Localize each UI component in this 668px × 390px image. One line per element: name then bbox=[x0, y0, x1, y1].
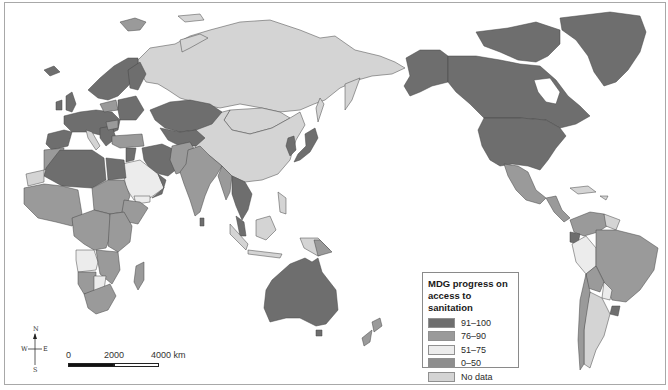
scale-label-4000: 4000 km bbox=[151, 350, 186, 360]
region-usa bbox=[478, 118, 566, 170]
legend-item-76-90: 76–90 bbox=[428, 330, 513, 344]
legend-swatch bbox=[428, 358, 455, 368]
region-uruguay bbox=[610, 306, 620, 316]
legend-item-0-50: 0–50 bbox=[428, 357, 513, 371]
region-central-africa bbox=[72, 210, 112, 250]
region-franz-josef bbox=[178, 14, 204, 22]
region-poland bbox=[100, 100, 118, 112]
region-canada bbox=[448, 56, 590, 128]
region-angola bbox=[76, 250, 98, 272]
compass-west: W bbox=[21, 345, 28, 353]
region-svalbard bbox=[120, 18, 146, 31]
compass-south: S bbox=[33, 366, 37, 374]
compass-rose: N W E S bbox=[20, 325, 50, 375]
region-romania bbox=[106, 120, 118, 130]
legend-item-91-100: 91–100 bbox=[428, 316, 513, 330]
legend-title: MDG progress on access to sanitation bbox=[428, 278, 513, 314]
region-uk bbox=[66, 92, 76, 112]
region-australia bbox=[264, 258, 338, 326]
region-philippines bbox=[278, 192, 286, 214]
region-ireland bbox=[56, 100, 62, 110]
legend-swatch bbox=[428, 345, 455, 355]
region-thailand-indochina bbox=[232, 176, 252, 220]
region-central-america bbox=[546, 196, 570, 222]
legend-swatch bbox=[428, 372, 455, 382]
compass-east: E bbox=[43, 345, 48, 353]
region-levant bbox=[126, 148, 136, 162]
region-caribbean bbox=[570, 186, 608, 200]
region-alaska bbox=[404, 50, 448, 96]
region-borneo bbox=[256, 216, 276, 240]
region-turkey bbox=[112, 134, 144, 148]
region-russia bbox=[138, 20, 405, 112]
scale-label-0: 0 bbox=[66, 350, 71, 360]
region-madagascar bbox=[134, 262, 144, 290]
region-sri-lanka bbox=[200, 218, 204, 226]
scale-label-2000: 2000 bbox=[104, 350, 124, 360]
legend-swatch bbox=[428, 318, 455, 328]
scale-bar: 0 2000 4000 km bbox=[66, 350, 266, 380]
compass-north: N bbox=[33, 325, 39, 333]
region-new-zealand bbox=[362, 318, 382, 346]
legend-item-51-75: 51–75 bbox=[428, 343, 513, 357]
legend-item-no-data: No data bbox=[428, 370, 513, 384]
region-java bbox=[248, 250, 282, 258]
region-iceland bbox=[44, 66, 60, 76]
region-eastern-europe bbox=[118, 96, 144, 120]
region-greenland bbox=[560, 12, 646, 86]
region-peru bbox=[572, 236, 596, 274]
region-tasmania bbox=[316, 330, 322, 336]
scale-bar-black bbox=[68, 363, 114, 367]
region-western-sahara bbox=[26, 170, 44, 186]
world-map bbox=[0, 0, 668, 390]
legend: MDG progress on access to sanitation 91–… bbox=[422, 272, 519, 368]
region-iberia bbox=[46, 130, 72, 150]
scale-bar-white bbox=[114, 363, 159, 367]
region-guianas bbox=[604, 214, 620, 230]
region-egypt bbox=[106, 158, 126, 180]
region-canada-arctic bbox=[476, 22, 560, 62]
legend-swatch bbox=[428, 331, 455, 341]
